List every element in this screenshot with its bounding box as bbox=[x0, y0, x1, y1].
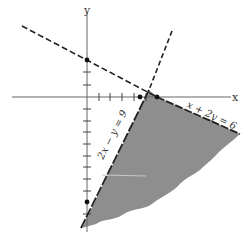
line-x-plus-2y-dashed bbox=[22, 26, 157, 97]
x-axis-label: x bbox=[232, 91, 239, 104]
y-axis-label: y bbox=[83, 4, 91, 17]
point-0-3 bbox=[85, 58, 90, 63]
point-6-0 bbox=[155, 95, 160, 100]
line-2x-minus-y-dashed bbox=[149, 31, 172, 90]
point-4.5-0 bbox=[138, 95, 143, 100]
point-0-neg9 bbox=[85, 200, 90, 205]
inequality-graph: y x x + 2y = 6 2x − y = 9 bbox=[0, 0, 250, 236]
